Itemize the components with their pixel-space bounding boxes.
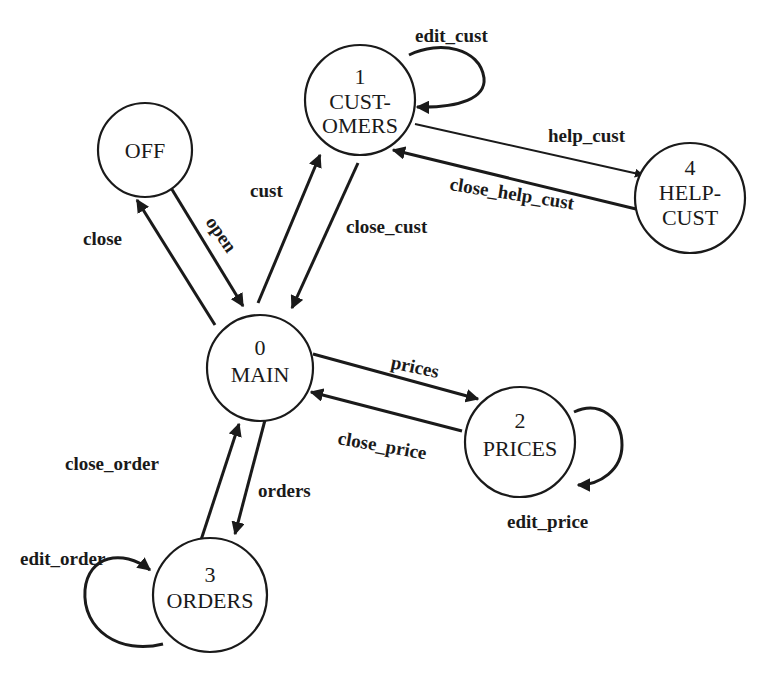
node-customers-label-2: OMERS (322, 113, 398, 138)
node-orders-number: 3 (205, 562, 216, 587)
edge-edit-cust (409, 48, 484, 107)
node-orders: 3 ORDERS (153, 538, 267, 652)
node-helpcust: 4 HELP- CUST (635, 143, 745, 253)
label-close-cust: close_cust (346, 216, 428, 237)
label-edit-cust: edit_cust (415, 25, 489, 46)
label-close: close (83, 228, 122, 249)
node-orders-label: ORDERS (167, 588, 254, 613)
label-orders: orders (258, 480, 311, 501)
label-edit-order: edit_order (20, 548, 106, 569)
edge-edit-order (85, 558, 163, 647)
node-helpcust-label-2: CUST (662, 205, 719, 230)
label-close-price: close_price (336, 427, 428, 463)
node-off-label: OFF (125, 138, 165, 163)
node-customers: 1 CUST- OMERS (305, 45, 415, 155)
node-customers-label-1: CUST- (329, 89, 391, 114)
edge-orders (235, 420, 265, 534)
label-help-cust: help_cust (548, 125, 626, 146)
edge-edit-price (574, 408, 622, 485)
node-main-label: MAIN (231, 362, 290, 387)
node-main-number: 0 (255, 335, 266, 360)
state-diagram: OFF 0 MAIN 1 CUST- OMERS 2 PRICES 3 ORDE… (0, 0, 760, 680)
edge-close (137, 200, 215, 325)
edge-close-price (311, 392, 462, 431)
label-close-order: close_order (65, 453, 159, 474)
edge-close-order (201, 424, 239, 540)
label-edit-price: edit_price (507, 511, 588, 532)
edge-cust (258, 155, 320, 303)
node-prices-label: PRICES (483, 436, 558, 461)
node-prices: 2 PRICES (465, 387, 575, 497)
node-helpcust-label-1: HELP- (659, 180, 721, 205)
node-helpcust-number: 4 (685, 155, 696, 180)
node-main: 0 MAIN (207, 315, 313, 421)
node-customers-number: 1 (355, 64, 366, 89)
node-prices-number: 2 (515, 408, 526, 433)
label-cust: cust (250, 180, 283, 201)
node-off: OFF (98, 103, 192, 197)
